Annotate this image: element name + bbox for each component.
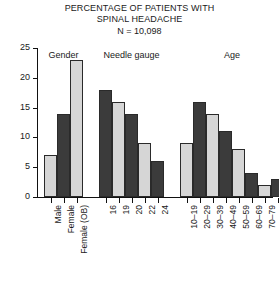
bar [258,185,271,197]
bar [112,102,125,197]
x-axis-category-label: 60–69 [255,205,264,229]
x-axis-tick [200,198,201,203]
bar [206,114,219,197]
chart-subtitle-sample-size: N = 10,098 [0,25,279,37]
x-axis-tick [64,198,65,203]
x-axis-tick [278,198,279,203]
y-axis-tick-label: 25 [4,43,30,52]
chart-figure: PERCENTAGE OF PATIENTS WITH SPINAL HEADA… [0,0,279,287]
chart-title-line-1: PERCENTAGE OF PATIENTS WITH [0,3,279,14]
bar [193,102,206,197]
x-axis-category-label: 10–19 [190,205,199,229]
bar [232,149,245,197]
bar [219,131,232,197]
bars-layer [37,48,273,197]
x-axis-tick [132,198,133,203]
x-axis-category-label: 20 [135,205,144,214]
y-axis-tick-label: 5 [4,162,30,171]
x-axis-category-label: 40–49 [229,205,238,229]
x-axis-tick [187,198,188,203]
group-header-label: Gender [48,50,78,60]
bar [57,114,70,197]
y-axis-tick-label: 0 [4,192,30,201]
y-axis-tick-label: 20 [4,73,30,82]
x-axis-tick [252,198,253,203]
x-axis-category-label: Male [54,205,63,223]
bar [70,60,83,197]
chart-title-block: PERCENTAGE OF PATIENTS WITH SPINAL HEADA… [0,3,279,37]
bar [151,161,164,197]
x-axis-tick [226,198,227,203]
group-header-label: Age [224,50,240,60]
x-axis-category-label: 22 [148,205,157,214]
x-axis-tick [145,198,146,203]
x-axis-tick [158,198,159,203]
y-axis-tick-label: 15 [4,103,30,112]
bar [245,173,258,197]
x-axis-category-label: 24 [161,205,170,214]
x-axis-category-label: 16 [109,205,118,214]
x-axis-tick [77,198,78,203]
y-axis-tick-label: 10 [4,132,30,141]
bar [271,179,279,197]
bar [125,114,138,197]
bar [180,143,193,197]
bar [44,155,57,197]
group-header-label: Needle gauge [103,50,159,60]
x-axis-tick [51,198,52,203]
x-axis-category-label: 30–39 [216,205,225,229]
x-axis-tick [265,198,266,203]
x-axis-category-label: 70–79 [268,205,277,229]
bar [138,143,151,197]
x-axis-category-label: 20–29 [203,205,212,229]
x-axis-tick [119,198,120,203]
x-axis-category-label: Female (OB) [80,205,89,254]
x-axis-category-label: 19 [122,205,131,214]
x-axis-tick [239,198,240,203]
bar [99,90,112,197]
x-axis-tick [213,198,214,203]
chart-title-line-2: SPINAL HEADACHE [0,14,279,25]
x-axis-tick [106,198,107,203]
x-axis-category-label: Female [67,205,76,233]
x-axis-category-label: 50–59 [242,205,251,229]
y-axis-tick [33,197,37,198]
